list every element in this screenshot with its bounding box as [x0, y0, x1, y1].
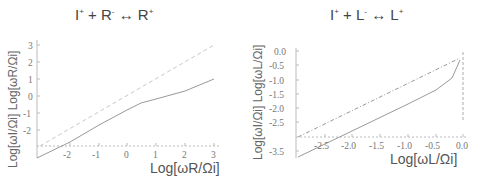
- svg-text:3: 3: [28, 41, 33, 51]
- svg-text:-2: -2: [23, 126, 31, 136]
- svg-text:3: 3: [211, 150, 216, 160]
- svg-text:-1.0: -1.0: [397, 141, 412, 151]
- svg-text:-2.0: -2.0: [269, 104, 284, 114]
- right-y-axis-label: Log[ωI/Ωi] Log[ωL/Ωi]: [251, 45, 265, 160]
- right-x-axis-label: Log[ωL/Ωi]: [390, 151, 457, 167]
- left-x-axis-label: Log[ωR/Ωi]: [150, 160, 220, 176]
- svg-text:-1.5: -1.5: [369, 141, 384, 151]
- left-chart-panel: I+ + R- ↔ R+ 3 2 1 0 -1 -2 -2 -1 0: [0, 0, 240, 183]
- svg-text:2: 2: [182, 150, 187, 160]
- svg-text:0: 0: [124, 150, 129, 160]
- svg-text:0: 0: [28, 92, 33, 102]
- left-y-axis-label: Log[ωI/Ωi] Log[ωR/Ωi]: [6, 51, 20, 168]
- svg-text:2: 2: [28, 58, 33, 68]
- svg-text:-2.5: -2.5: [269, 118, 284, 128]
- svg-text:1: 1: [153, 150, 158, 160]
- svg-text:-0.5: -0.5: [269, 61, 284, 71]
- svg-text:-0.5: -0.5: [425, 141, 440, 151]
- svg-text:-1.5: -1.5: [269, 90, 284, 100]
- svg-text:-1: -1: [23, 109, 31, 119]
- svg-text:-2.5: -2.5: [314, 141, 329, 151]
- svg-text:-1.0: -1.0: [269, 76, 284, 86]
- svg-text:-3.5: -3.5: [269, 147, 284, 157]
- svg-text:-1: -1: [92, 150, 100, 160]
- right-chart-panel: I+ + L- ↔ L+ 0.0 -0.5 -1.0 -1.5 -2.0 -2.…: [240, 0, 481, 183]
- svg-text:0.0: 0.0: [274, 47, 286, 57]
- svg-text:1: 1: [28, 75, 33, 85]
- svg-text:-2.0: -2.0: [341, 141, 356, 151]
- svg-text:0.0: 0.0: [456, 141, 468, 151]
- left-tick-labels: 3 2 1 0 -1 -2 -2 -1 0 1 2 3: [0, 0, 240, 183]
- svg-text:-2: -2: [63, 150, 71, 160]
